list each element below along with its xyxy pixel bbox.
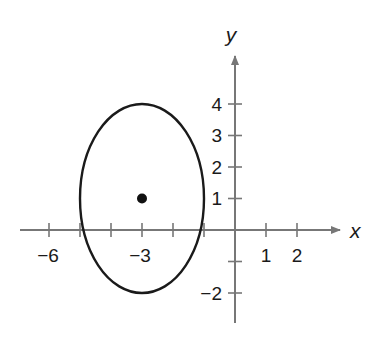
x-axis-label: x <box>349 219 362 242</box>
x-tick-label-1: 1 <box>261 245 272 266</box>
x-tick-label-2: 2 <box>292 245 303 266</box>
x-tick-label-neg6: −6 <box>37 245 59 266</box>
y-tick-label-1: 1 <box>211 188 222 209</box>
y-tick-label-neg2: −2 <box>200 283 222 304</box>
y-axis-label: y <box>224 23 238 46</box>
x-tick-label-neg3: −3 <box>129 245 151 266</box>
y-tick-label-3: 3 <box>211 125 222 146</box>
y-tick-label-4: 4 <box>211 94 222 115</box>
y-tick-label-2: 2 <box>211 157 222 178</box>
coordinate-plane: −6 −3 1 2 4 3 2 1 −2 x y <box>0 0 372 339</box>
center-point <box>137 194 147 204</box>
